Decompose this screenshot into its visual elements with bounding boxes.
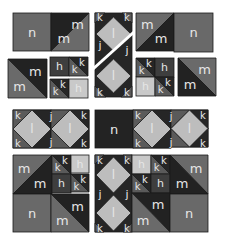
group-small-hk-right: kkhhkk — [136, 58, 174, 96]
piece-label-j: j — [124, 188, 128, 201]
piece-label-m: m — [56, 213, 69, 228]
group-small-hk-left: hkkkkh — [50, 57, 88, 98]
piece-label-l: l — [30, 122, 33, 136]
piece-label-k: k — [60, 79, 66, 90]
piece-label-k: k — [80, 174, 86, 185]
piece-label-l: l — [112, 168, 115, 182]
piece-label-m: m — [13, 79, 26, 94]
piece-label-k: k — [161, 155, 167, 166]
piece-label-j: j — [124, 44, 128, 57]
piece-label-k: k — [124, 87, 130, 98]
piece-label-k: k — [97, 223, 103, 234]
piece-label-k: k — [154, 162, 160, 173]
piece-label-k: k — [135, 138, 141, 149]
group-vertical-diamond-strip: llkkjjkk — [93, 12, 134, 98]
piece-label-m: m — [152, 197, 165, 212]
piece-label-n: n — [28, 206, 36, 221]
piece-label-m: m — [18, 161, 31, 176]
group-horizontal-diamond-strip: llkkjjkk — [13, 110, 89, 149]
piece-label-m: m — [34, 176, 47, 191]
piece-label-n: n — [110, 122, 118, 137]
piece-label-j: j — [97, 39, 101, 52]
piece-label-m: m — [184, 77, 197, 92]
piece-label-l: l — [150, 122, 153, 136]
piece-label-j: j — [48, 136, 52, 149]
tangram-puzzle-diagram: nmmmmhkkkkhllkkjjkkmmnkkhhkkmmllkkjjkknl… — [0, 0, 225, 240]
piece-label-h: h — [58, 177, 65, 190]
group-top-right-pair: mmn — [136, 13, 213, 52]
group-top-left-pair: nmm — [13, 13, 89, 51]
piece-label-m: m — [29, 64, 42, 79]
piece-label-j: j — [48, 110, 52, 123]
piece-label-m: m — [190, 161, 203, 176]
piece-label-k: k — [200, 138, 206, 149]
group-bottom-right-block: llkkjjkkhkkkkhmmmmn — [95, 155, 208, 234]
piece-label-h: h — [77, 158, 84, 171]
piece-label-k: k — [165, 77, 171, 88]
piece-label-h: h — [161, 61, 168, 74]
piece-label-k: k — [55, 162, 61, 173]
piece-label-n: n — [189, 25, 197, 40]
piece-label-j: j — [97, 188, 101, 201]
piece-label-j: j — [168, 110, 172, 123]
piece-label-m: m — [137, 213, 150, 228]
piece-label-k: k — [97, 12, 103, 23]
piece-label-j: j — [168, 136, 172, 149]
piece-label-k: k — [124, 223, 130, 234]
piece-label-k: k — [81, 110, 87, 121]
piece-label-k: k — [72, 64, 78, 75]
piece-label-k: k — [97, 155, 103, 166]
piece-label-m: m — [176, 176, 189, 191]
piece-label-k: k — [146, 58, 152, 69]
piece-label-l: l — [112, 27, 115, 41]
piece-label-k: k — [142, 174, 148, 185]
piece-label-m: m — [58, 31, 71, 46]
piece-label-h: h — [138, 158, 145, 171]
piece-label-n: n — [185, 206, 193, 221]
group-n-with-diamond-strip: nllkkjjkk — [95, 110, 208, 149]
group-right-m-square: mm — [178, 58, 216, 96]
group-bottom-left-block: mmkkhhkknmm — [13, 155, 89, 232]
piece-label-k: k — [135, 181, 141, 192]
piece-label-h: h — [75, 82, 82, 95]
piece-label-k: k — [15, 110, 21, 121]
piece-label-k: k — [62, 155, 68, 166]
piece-label-k: k — [74, 181, 80, 192]
piece-label-l: l — [112, 206, 115, 220]
piece-label-n: n — [28, 25, 36, 40]
group-left-m-square: mm — [8, 59, 47, 98]
piece-label-m: m — [71, 199, 84, 214]
piece-label-k: k — [158, 84, 164, 95]
piece-label-m: m — [71, 17, 84, 32]
piece-label-k: k — [200, 110, 206, 121]
piece-label-k: k — [53, 86, 59, 97]
piece-label-h: h — [142, 80, 149, 93]
piece-label-m: m — [198, 62, 211, 77]
piece-label-k: k — [81, 138, 87, 149]
piece-label-k: k — [79, 57, 85, 68]
piece-label-h: h — [56, 60, 63, 73]
piece-label-k: k — [97, 87, 103, 98]
piece-label-k: k — [15, 138, 21, 149]
piece-label-k: k — [124, 155, 130, 166]
piece-label-k: k — [139, 65, 145, 76]
piece-label-k: k — [124, 12, 130, 23]
piece-label-k: k — [135, 110, 141, 121]
piece-label-m: m — [155, 31, 168, 46]
piece-label-h: h — [157, 177, 164, 190]
piece-label-l: l — [188, 122, 191, 136]
piece-label-m: m — [141, 17, 154, 32]
piece-label-l: l — [112, 69, 115, 83]
piece-label-l: l — [68, 122, 71, 136]
